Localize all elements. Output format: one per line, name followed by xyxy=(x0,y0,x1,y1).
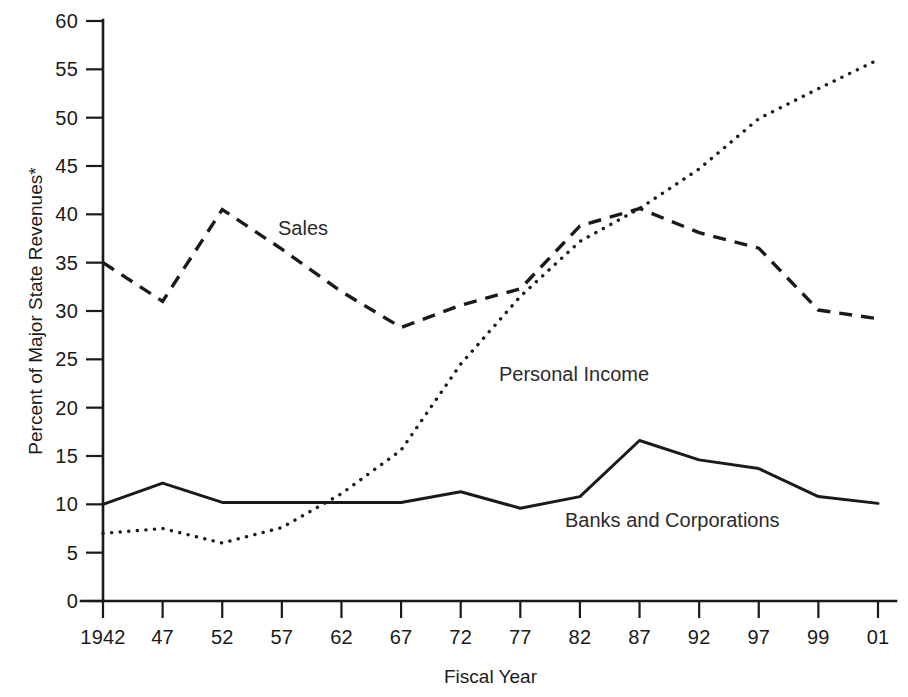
y-tick-label: 35 xyxy=(55,252,78,274)
y-tick-label: 20 xyxy=(55,397,78,419)
y-tick-label: 5 xyxy=(67,542,78,564)
y-axis-title: Percent of Major State Revenues* xyxy=(25,167,46,455)
x-axis-title: Fiscal Year xyxy=(444,666,538,687)
x-tick-label: 82 xyxy=(569,626,592,648)
y-tick-label: 15 xyxy=(55,445,78,467)
x-tick-label: 72 xyxy=(449,626,472,648)
x-tick-label: 87 xyxy=(628,626,651,648)
x-tick-label: 77 xyxy=(509,626,532,648)
x-tick-label: 97 xyxy=(747,626,770,648)
y-tick-label: 45 xyxy=(55,155,78,177)
y-tick-label: 50 xyxy=(55,107,78,129)
y-tick-label: 0 xyxy=(67,590,78,612)
series-annotation-banks-and-corporations: Banks and Corporations xyxy=(565,509,780,531)
series-line-sales xyxy=(103,209,878,328)
x-tick-label: 52 xyxy=(211,626,234,648)
series-annotation-sales: Sales xyxy=(278,217,328,239)
y-tick-label: 30 xyxy=(55,300,78,322)
x-tick-label: 01 xyxy=(867,626,890,648)
chart-container: 0510152025303540455055601942475257626772… xyxy=(0,0,908,697)
series-line-banks-and-corporations xyxy=(103,441,878,509)
y-tick-label: 25 xyxy=(55,348,78,370)
x-tick-label: 92 xyxy=(688,626,711,648)
x-tick-label: 67 xyxy=(390,626,413,648)
y-tick-label: 60 xyxy=(55,10,78,32)
x-tick-label: 47 xyxy=(151,626,174,648)
x-tick-label: 1942 xyxy=(80,626,125,648)
x-tick-label: 62 xyxy=(330,626,353,648)
line-chart: 0510152025303540455055601942475257626772… xyxy=(0,0,908,697)
y-tick-label: 40 xyxy=(55,203,78,225)
x-tick-label: 99 xyxy=(807,626,830,648)
y-tick-label: 55 xyxy=(55,58,78,80)
y-tick-label: 10 xyxy=(55,493,78,515)
x-tick-label: 57 xyxy=(271,626,294,648)
series-annotation-personal-income: Personal Income xyxy=(499,363,649,385)
